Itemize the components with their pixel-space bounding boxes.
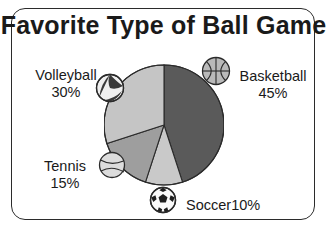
slice-label-tennis-name: Tennis (44, 158, 86, 174)
pie-chart (104, 60, 224, 186)
page-title: Favorite Type of Ball Game (0, 11, 327, 40)
slice-label-soccer-pct: 10% (231, 197, 260, 213)
slice-label-basketball: Basketball 45% (231, 68, 315, 101)
slice-label-volleyball-name: Volleyball (35, 67, 96, 83)
basketball-icon (200, 55, 232, 87)
slice-label-volleyball-pct: 30% (24, 84, 108, 101)
tennis-ball-icon (97, 150, 127, 180)
slice-label-basketball-pct: 45% (231, 85, 315, 102)
slice-label-basketball-name: Basketball (240, 68, 307, 84)
slice-label-tennis-pct: 15% (32, 175, 98, 192)
soccer-ball-icon (148, 185, 178, 215)
slice-label-soccer: Soccer10% (186, 197, 306, 214)
slice-label-soccer-name: Soccer (186, 197, 231, 213)
chart-screenshot: Favorite Type of Ball Game (0, 0, 327, 233)
slice-label-tennis: Tennis 15% (32, 158, 98, 191)
slice-label-volleyball: Volleyball 30% (24, 67, 108, 100)
